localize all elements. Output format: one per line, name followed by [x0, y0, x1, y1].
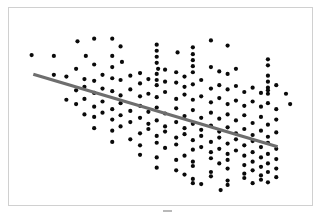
axis-caption-artifact	[163, 210, 172, 212]
scatter-point	[259, 155, 263, 159]
scatter-point	[155, 155, 159, 159]
scatter-point	[155, 78, 159, 82]
scatter-point	[128, 137, 132, 141]
scatter-point	[155, 49, 159, 53]
scatter-point	[242, 127, 246, 131]
scatter-point	[138, 116, 142, 120]
scatter-point	[118, 124, 122, 128]
scatter-point	[110, 54, 114, 58]
scatter-point	[191, 108, 195, 112]
scatter-point	[274, 83, 278, 87]
scatter-point	[146, 92, 150, 96]
scatter-point	[234, 67, 238, 71]
scatter-point	[251, 121, 255, 125]
scatter-point	[110, 76, 114, 80]
scatter-point	[199, 116, 203, 120]
scatter-point	[146, 127, 150, 131]
scatter-point	[274, 166, 278, 170]
scatter-point	[92, 79, 96, 83]
scatter-point	[138, 81, 142, 85]
scatter-point	[30, 53, 34, 57]
scatter-point	[274, 130, 278, 134]
scatter-point	[266, 170, 270, 174]
scatter-point	[110, 129, 114, 133]
scatter-point	[242, 176, 246, 180]
scatter-point	[138, 94, 142, 98]
scatter-point	[163, 129, 167, 133]
scatter-point	[266, 63, 270, 67]
scatter-point	[209, 86, 213, 90]
scatter-point	[191, 82, 195, 86]
scatter-point	[251, 181, 255, 185]
scatter-point	[209, 38, 213, 42]
scatter-point	[118, 78, 122, 82]
scatter-point	[156, 67, 160, 71]
scatter-point	[284, 92, 288, 96]
scatter-point	[274, 117, 278, 121]
scatter-point	[217, 161, 221, 165]
scatter-point	[242, 104, 246, 108]
scatter-point	[100, 111, 104, 115]
scatter-point	[138, 153, 142, 157]
scatter-point	[226, 179, 230, 183]
scatter-point	[120, 60, 124, 64]
scatter-point	[234, 148, 238, 152]
scatter-point	[226, 142, 230, 146]
scatter-point	[266, 74, 270, 78]
scatter-point	[174, 80, 178, 84]
scatter-point	[199, 94, 203, 98]
scatter-point	[209, 174, 213, 178]
scatter-point	[191, 177, 195, 181]
scatter-point	[163, 80, 167, 84]
scatter-point	[209, 100, 213, 104]
scatter-point	[155, 43, 159, 47]
scatter-point	[118, 113, 122, 117]
scatter-point	[155, 166, 159, 170]
scatter-point	[110, 107, 114, 111]
scatter-point	[92, 126, 96, 130]
scatter-point	[100, 73, 104, 77]
scatter-point	[146, 122, 150, 126]
scatter-point	[182, 126, 186, 130]
scatter-point	[259, 145, 263, 149]
scatter-point	[128, 120, 132, 124]
scatter-point	[259, 115, 263, 119]
scatter-point	[274, 107, 278, 111]
scatter-point	[266, 80, 270, 84]
scatter-point	[92, 105, 96, 109]
scatter-point	[110, 65, 114, 69]
scatter-point	[234, 137, 238, 141]
scatter-point	[155, 72, 159, 76]
scatter-point	[259, 178, 263, 182]
scatter-point	[259, 165, 263, 169]
scatter-point	[266, 88, 270, 92]
scatter-point	[74, 67, 78, 71]
scatter-point	[199, 134, 203, 138]
scatter-point	[182, 154, 186, 158]
scatter-point	[146, 77, 150, 81]
scatter-point	[110, 89, 114, 93]
scatter-point	[226, 166, 230, 170]
scatter-point	[242, 172, 246, 176]
scatter-point	[217, 69, 221, 73]
scatter-point	[82, 97, 86, 101]
scatter-point	[174, 158, 178, 162]
scatter-point	[251, 168, 255, 172]
scatter-point	[155, 55, 159, 59]
scatter-point	[259, 91, 263, 95]
scatter-point	[266, 123, 270, 127]
scatter-point	[110, 117, 114, 121]
scatter-point	[174, 168, 178, 172]
scatter-point	[138, 71, 142, 75]
scatter-point	[242, 163, 246, 167]
scatter-point	[110, 140, 114, 144]
scatter-point	[100, 99, 104, 103]
scatter-point	[118, 44, 122, 48]
scatter-point	[234, 118, 238, 122]
scatter-point	[174, 120, 178, 124]
scatter-point	[82, 77, 86, 81]
scatter-plot-figure	[0, 0, 327, 218]
scatter-point	[155, 95, 159, 99]
scatter-point	[128, 87, 132, 91]
scatter-point	[209, 140, 213, 144]
